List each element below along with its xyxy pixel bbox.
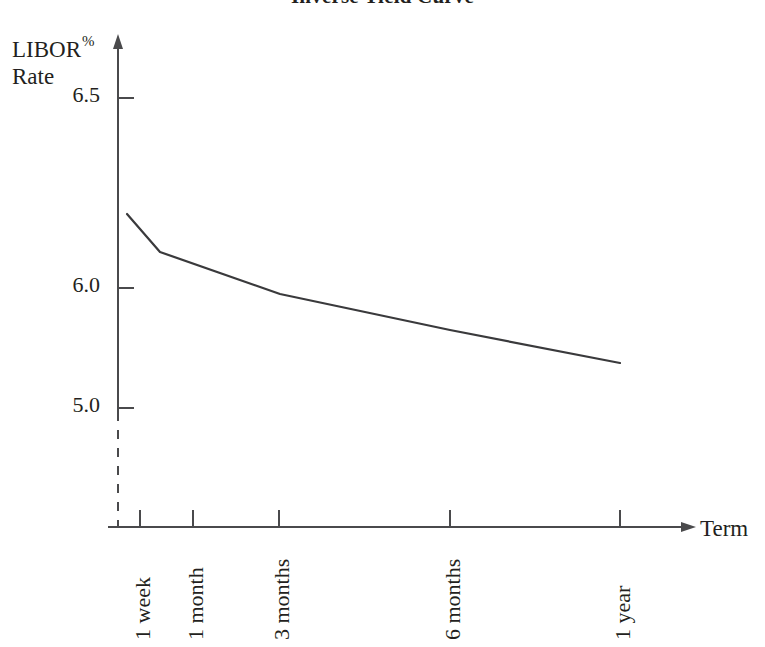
yield-curve-line: [127, 214, 620, 363]
plot-area: [0, 0, 765, 647]
yield-curve-figure: Inverse Yield Curve LIBOR% Rate Term 6.5…: [0, 0, 765, 647]
y-axis-arrow-icon: [113, 34, 123, 49]
x-axis-arrow-icon: [681, 522, 696, 532]
